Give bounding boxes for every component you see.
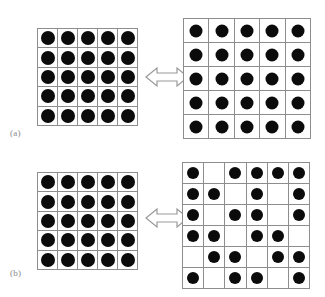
lattice-cell-occupied: [289, 184, 310, 205]
lattice-cell-occupied: [98, 68, 118, 87]
lattice-cell-occupied: [58, 48, 78, 67]
lattice-cell-occupied: [184, 19, 209, 43]
lattice-cell-empty: [225, 184, 246, 205]
lattice-cell-occupied: [286, 67, 311, 91]
lattice-cell-occupied: [204, 247, 225, 268]
lattice-cell-empty: [268, 184, 289, 205]
lattice-cell-occupied: [268, 163, 289, 184]
lattice-cell-occupied: [38, 231, 58, 250]
lattice-cell-occupied: [78, 68, 98, 87]
lattice-cell-occupied: [289, 205, 310, 226]
lattice-cell-occupied: [209, 19, 234, 43]
lattice-cell-occupied: [98, 107, 118, 126]
panel-label-b: (b): [10, 268, 21, 278]
lattice-cell-occupied: [98, 212, 118, 231]
lattice-cell-empty: [183, 247, 204, 268]
lattice-cell-occupied: [58, 251, 78, 270]
lattice-cell-occupied: [183, 226, 204, 247]
lattice-cell-occupied: [38, 107, 58, 126]
panel-b: (b): [0, 150, 325, 297]
lattice-cell-occupied: [260, 67, 285, 91]
lattice-cell-occupied: [118, 192, 138, 211]
lattice-cell-occupied: [260, 43, 285, 67]
lattice-a-right: [183, 18, 311, 139]
lattice-cell-occupied: [289, 268, 310, 289]
lattice-cell-occupied: [118, 87, 138, 106]
lattice-cell-occupied: [289, 163, 310, 184]
lattice-cell-empty: [204, 268, 225, 289]
lattice-cell-occupied: [38, 29, 58, 48]
lattice-cell-occupied: [225, 247, 246, 268]
lattice-cell-occupied: [98, 251, 118, 270]
lattice-cell-empty: [204, 205, 225, 226]
lattice-cell-occupied: [184, 43, 209, 67]
lattice-cell-occupied: [118, 173, 138, 192]
lattice-cell-occupied: [183, 268, 204, 289]
lattice-cell-empty: [225, 226, 246, 247]
lattice-b-right: [182, 162, 310, 289]
lattice-cell-occupied: [58, 173, 78, 192]
panel-label-a: (a): [10, 128, 21, 138]
lattice-cell-occupied: [78, 48, 98, 67]
lattice-cell-occupied: [58, 212, 78, 231]
lattice-cell-occupied: [209, 91, 234, 115]
lattice-cell-empty: [268, 268, 289, 289]
lattice-cell-occupied: [58, 68, 78, 87]
lattice-cell-occupied: [235, 115, 260, 139]
lattice-cell-occupied: [209, 115, 234, 139]
lattice-cell-occupied: [78, 231, 98, 250]
lattice-cell-occupied: [183, 205, 204, 226]
lattice-cell-occupied: [268, 247, 289, 268]
lattice-cell-occupied: [286, 19, 311, 43]
lattice-cell-occupied: [184, 67, 209, 91]
lattice-cell-occupied: [204, 184, 225, 205]
lattice-cell-empty: [204, 163, 225, 184]
lattice-cell-occupied: [235, 19, 260, 43]
lattice-cell-occupied: [183, 163, 204, 184]
lattice-cell-occupied: [209, 43, 234, 67]
lattice-cell-occupied: [289, 247, 310, 268]
lattice-cell-empty: [268, 205, 289, 226]
lattice-cell-occupied: [118, 231, 138, 250]
panel-a: (a): [0, 0, 325, 150]
lattice-cell-occupied: [286, 115, 311, 139]
lattice-cell-occupied: [98, 48, 118, 67]
lattice-cell-occupied: [118, 68, 138, 87]
lattice-cell-occupied: [235, 91, 260, 115]
lattice-cell-occupied: [225, 163, 246, 184]
lattice-cell-occupied: [247, 205, 268, 226]
lattice-cell-occupied: [78, 212, 98, 231]
lattice-cell-occupied: [98, 231, 118, 250]
lattice-cell-occupied: [58, 192, 78, 211]
lattice-cell-occupied: [38, 192, 58, 211]
lattice-cell-occupied: [38, 251, 58, 270]
lattice-cell-occupied: [78, 173, 98, 192]
lattice-cell-occupied: [78, 29, 98, 48]
lattice-cell-occupied: [98, 29, 118, 48]
lattice-cell-occupied: [209, 67, 234, 91]
lattice-cell-occupied: [98, 192, 118, 211]
lattice-cell-occupied: [58, 231, 78, 250]
lattice-cell-occupied: [38, 68, 58, 87]
lattice-cell-occupied: [78, 107, 98, 126]
lattice-cell-occupied: [78, 87, 98, 106]
lattice-cell-occupied: [78, 251, 98, 270]
lattice-cell-occupied: [286, 91, 311, 115]
lattice-cell-occupied: [268, 226, 289, 247]
lattice-cell-occupied: [286, 43, 311, 67]
lattice-cell-occupied: [58, 107, 78, 126]
lattice-cell-occupied: [184, 91, 209, 115]
lattice-cell-occupied: [183, 184, 204, 205]
lattice-cell-occupied: [260, 115, 285, 139]
lattice-cell-occupied: [247, 163, 268, 184]
lattice-cell-occupied: [118, 107, 138, 126]
lattice-cell-occupied: [225, 205, 246, 226]
lattice-cell-occupied: [98, 173, 118, 192]
lattice-cell-occupied: [204, 226, 225, 247]
lattice-cell-occupied: [38, 212, 58, 231]
lattice-cell-occupied: [38, 87, 58, 106]
lattice-cell-occupied: [235, 43, 260, 67]
lattice-cell-empty: [247, 247, 268, 268]
lattice-cell-occupied: [38, 48, 58, 67]
lattice-cell-occupied: [247, 184, 268, 205]
